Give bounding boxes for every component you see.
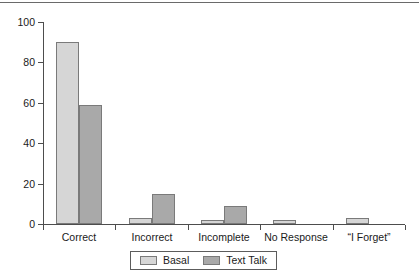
x-axis-category-label: Correct	[62, 232, 96, 243]
x-axis-tick	[405, 225, 406, 230]
y-axis-tick-label: 40	[23, 138, 35, 149]
plot-area: 020406080100 CorrectIncorrectIncompleteN…	[43, 22, 405, 225]
x-axis-line	[43, 224, 405, 225]
legend-label-basal: Basal	[163, 255, 189, 266]
chart-legend: Basal Text Talk	[130, 251, 277, 270]
y-axis-tick	[38, 62, 43, 63]
y-axis-tick	[38, 184, 43, 185]
legend-label-text-talk: Text Talk	[226, 255, 267, 266]
y-axis-tick-label: 60	[23, 98, 35, 109]
x-axis-category-label: “I Forget”	[347, 232, 390, 243]
top-divider-rule	[0, 2, 419, 3]
x-axis-tick	[43, 225, 44, 230]
y-axis-tick	[38, 22, 43, 23]
x-axis-tick	[333, 225, 334, 230]
bar-no-response-basal	[273, 220, 296, 224]
legend-swatch-text-talk-icon	[203, 256, 220, 265]
bar-incorrect-basal	[129, 218, 152, 224]
y-axis-tick-label: 80	[23, 57, 35, 68]
bar-i-forget-basal	[346, 218, 369, 224]
y-axis-tick-label: 0	[29, 219, 35, 230]
x-axis-category-label: Incorrect	[132, 232, 173, 243]
bar-correct-text-talk	[79, 105, 102, 224]
y-axis-tick	[38, 143, 43, 144]
bar-incomplete-basal	[201, 220, 224, 224]
x-axis-category-label: No Response	[264, 232, 328, 243]
x-axis-category-label: Incomplete	[198, 232, 249, 243]
bar-incomplete-text-talk	[224, 206, 247, 224]
y-axis-line	[43, 22, 44, 225]
x-axis-tick	[260, 225, 261, 230]
x-axis-tick	[115, 225, 116, 230]
bar-chart-figure: 020406080100 CorrectIncorrectIncompleteN…	[0, 0, 419, 280]
y-axis-tick-label: 20	[23, 178, 35, 189]
legend-swatch-basal-icon	[140, 256, 157, 265]
legend-entry-text-talk: Text Talk	[203, 255, 267, 266]
y-axis-tick	[38, 103, 43, 104]
legend-entry-basal: Basal	[140, 255, 189, 266]
bar-incorrect-text-talk	[152, 194, 175, 224]
bar-correct-basal	[56, 42, 79, 224]
x-axis-tick	[188, 225, 189, 230]
y-axis-tick-label: 100	[17, 17, 35, 28]
